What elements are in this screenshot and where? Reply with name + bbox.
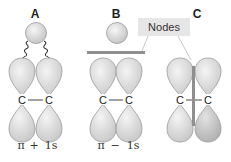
p-lobe-lower-left [90, 104, 116, 142]
carbon-atom-left: C [99, 94, 107, 106]
caption-pi: π [97, 139, 104, 152]
carbon-atom-left: C [176, 94, 184, 106]
caption-1s: 1s [127, 139, 140, 152]
p-lobe-lower-left [167, 104, 193, 142]
caption-minus: − [110, 139, 119, 152]
p-lobe-upper-right [116, 58, 142, 96]
callout-pointer-right [178, 36, 191, 60]
p-lobe-lower-right [116, 104, 142, 142]
panel-a: A C C π + 1s [9, 7, 62, 152]
p-lobe-upper-right [195, 58, 221, 96]
p-lobe-lower-right-shaded [195, 104, 221, 142]
p-lobe-upper-left [90, 58, 116, 96]
nodes-callout: Nodes [138, 18, 191, 60]
callout-label: Nodes [148, 21, 180, 33]
p-lobe-upper-left [167, 58, 193, 96]
panel-a-label: A [31, 7, 40, 21]
nodal-plane-horizontal [87, 51, 145, 54]
caption-pi: π [17, 139, 24, 152]
carbon-atom-right: C [45, 94, 53, 106]
p-lobe-upper-right [36, 58, 62, 96]
panel-b: B C C π − 1s [87, 7, 145, 152]
panel-c-label: C [193, 7, 202, 21]
carbon-atom-right: C [125, 94, 133, 106]
nodal-plane-vertical [192, 66, 195, 126]
p-lobe-lower-left [9, 104, 35, 142]
s-orbital-sphere [107, 23, 128, 44]
p-lobe-upper-left [9, 58, 35, 96]
callout-pointer-left [142, 36, 148, 51]
p-lobe-lower-right [36, 104, 62, 142]
caption-plus: + [29, 139, 38, 152]
carbon-atom-left: C [18, 94, 26, 106]
caption-1s: 1s [45, 139, 58, 152]
s-orbital-sphere [26, 23, 47, 44]
orbital-diagram: A C C π + 1s B C C π − 1s [0, 0, 231, 162]
panel-b-label: B [112, 7, 121, 21]
carbon-atom-right: C [204, 94, 212, 106]
